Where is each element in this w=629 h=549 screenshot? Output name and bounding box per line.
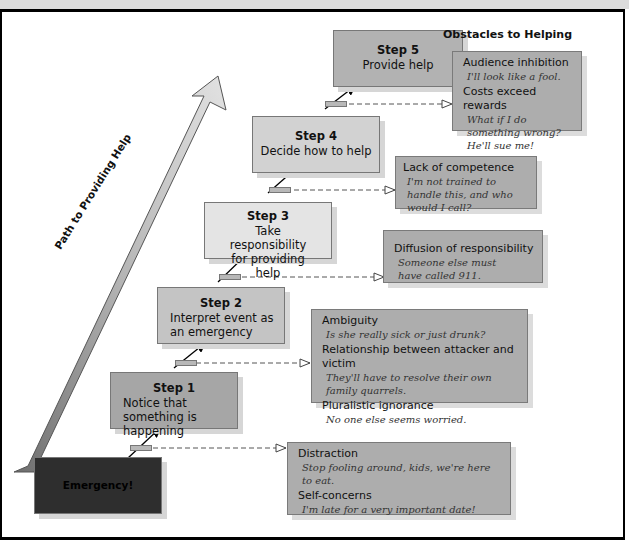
obstacle-box-step5: Audience inhibition I'll look like a foo…	[452, 51, 582, 131]
obstacle-quote: I'll look like a fool.	[463, 70, 573, 83]
connector-tab	[269, 187, 291, 193]
step-4: Step 4 Decide how to help	[252, 116, 380, 173]
step-emergency: Emergency!	[34, 457, 162, 514]
obstacle-box-step2: Ambiguity Is she really sick or just dru…	[311, 309, 528, 403]
step-desc: Decide how to help	[253, 144, 379, 158]
obstacle-quote: Stop fooling around, kids, we're here to…	[298, 461, 502, 487]
obstacle-heading: Self-concerns	[298, 489, 502, 503]
connector-tab	[130, 445, 152, 451]
step-desc: Interpret event as an emergency	[158, 311, 284, 339]
obstacle-box-step3: Diffusion of responsibility Someone else…	[383, 230, 543, 283]
connector-tab	[325, 101, 347, 107]
step-desc: Take responsibility for providing help	[205, 224, 331, 280]
obstacle-heading: Lack of competence	[403, 161, 528, 175]
step-title: Step 3	[205, 209, 331, 224]
obstacle-quote: Is she really sick or just drunk?	[322, 328, 519, 341]
step-1: Step 1 Notice that something is happenin…	[110, 372, 238, 429]
step-3: Step 3 Take responsibility for providing…	[204, 202, 332, 259]
obstacle-heading: Diffusion of responsibility	[394, 242, 534, 256]
obstacle-box-step4: Lack of competence I'm not trained to ha…	[395, 156, 537, 209]
obstacle-quote: Someone else must have called 911.	[394, 256, 518, 282]
step-title: Emergency!	[35, 478, 161, 493]
step-title: Step 2	[158, 296, 284, 311]
step-title: Step 4	[253, 129, 379, 144]
obstacle-heading: Distraction	[298, 447, 502, 461]
obstacle-quote: No one else seems worried.	[322, 413, 519, 426]
step-title: Step 1	[111, 381, 237, 396]
step-2: Step 2 Interpret event as an emergency	[157, 287, 285, 344]
obstacle-heading: Ambiguity	[322, 314, 519, 328]
obstacles-heading: Obstacles to Helping	[443, 28, 572, 41]
obstacle-quote: What if I do something wrong? He'll sue …	[463, 113, 573, 152]
obstacle-box-step1: Distraction Stop fooling around, kids, w…	[287, 442, 511, 515]
step-title: Step 5	[334, 43, 462, 58]
obstacle-heading: Pluralistic ignorance	[322, 399, 519, 413]
step-desc: Provide help	[334, 58, 462, 72]
step-desc: Notice that something is happening	[111, 396, 237, 438]
obstacle-heading: Costs exceed rewards	[463, 85, 573, 113]
obstacle-heading: Relationship between attacker and victim	[322, 343, 519, 371]
obstacle-quote: I'm not trained to handle this, and who …	[403, 175, 528, 214]
obstacle-quote: They'll have to resolve their own family…	[322, 371, 519, 397]
obstacle-heading: Audience inhibition	[463, 56, 573, 70]
connector-tab	[175, 360, 197, 366]
obstacle-quote: I'm late for a very important date!	[298, 503, 502, 516]
